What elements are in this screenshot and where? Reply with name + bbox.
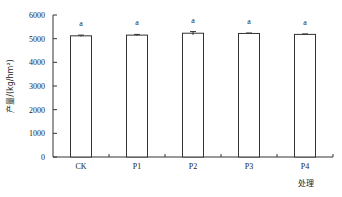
- significance-letter: a: [191, 16, 195, 25]
- bar-p2: aP2: [183, 16, 204, 171]
- y-tick-label: 1000: [29, 129, 45, 138]
- significance-letter: a: [79, 19, 83, 28]
- x-axis-label: 处理: [298, 178, 314, 188]
- significance-letter: a: [303, 18, 307, 27]
- y-tick-label: 4000: [29, 58, 45, 67]
- x-tick-label: P3: [245, 162, 253, 171]
- y-tick-label: 5000: [29, 35, 45, 44]
- y-axis-label: 产量/(kg/hm²): [5, 59, 15, 112]
- bar-p1: aP1: [127, 18, 148, 171]
- y-tick-label: 3000: [29, 82, 45, 91]
- y-tick-label: 0: [41, 153, 45, 162]
- bars: aCKaP1aP2aP3aP4: [71, 16, 316, 171]
- significance-letter: a: [247, 17, 251, 26]
- bar-chart: 0100020003000400050006000 aCKaP1aP2aP3aP…: [0, 0, 342, 197]
- y-tick-label: 6000: [29, 11, 45, 20]
- bar-p4: aP4: [295, 18, 316, 171]
- x-tick-label: P4: [301, 162, 309, 171]
- bar-p3: aP3: [239, 17, 260, 171]
- bar-ck: aCK: [71, 19, 92, 171]
- x-tick-label: CK: [75, 162, 86, 171]
- significance-letter: a: [135, 18, 139, 27]
- x-tick-label: P1: [133, 162, 141, 171]
- y-axis: 0100020003000400050006000: [29, 11, 57, 162]
- y-tick-label: 2000: [29, 106, 45, 115]
- x-tick-label: P2: [189, 162, 197, 171]
